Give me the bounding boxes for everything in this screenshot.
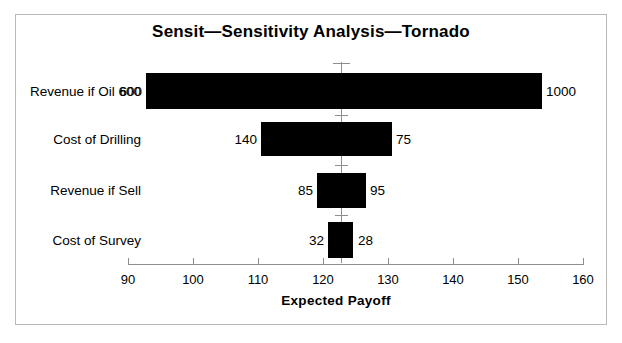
x-axis-label-100: 100 xyxy=(168,272,218,287)
bar-low-value-revenue-if-oil-600: 600 xyxy=(60,84,142,99)
x-axis-title: Expected Payoff xyxy=(236,293,436,308)
bar-high-value-cost-of-survey: 28 xyxy=(358,233,418,248)
x-axis-tick-110 xyxy=(258,258,259,265)
x-axis-label-120: 120 xyxy=(298,272,348,287)
bar-revenue-if-oil-600 xyxy=(146,73,542,109)
x-axis-tick-90 xyxy=(128,258,129,265)
x-axis-tick-150 xyxy=(518,258,519,265)
bar-high-value-revenue-if-oil-600: 1000 xyxy=(546,84,606,99)
bar-cost-of-survey xyxy=(328,222,353,258)
bar-high-value-cost-of-drilling: 75 xyxy=(396,132,456,147)
x-axis-tick-160 xyxy=(583,258,584,265)
x-axis-line xyxy=(128,264,584,265)
x-axis-tick-130 xyxy=(388,258,389,265)
x-axis-label-160: 160 xyxy=(558,272,608,287)
baseline-tick-2 xyxy=(335,165,348,166)
row-label-revenue-if-sell: Revenue if Sell xyxy=(0,183,141,198)
baseline-tick-top xyxy=(333,63,350,64)
x-axis-label-110: 110 xyxy=(233,272,283,287)
plot-area: Revenue if Oil 600 600 1000 Cost of Dril… xyxy=(0,0,622,343)
x-axis-tick-100 xyxy=(193,258,194,265)
bar-low-value-cost-of-survey: 32 xyxy=(262,233,324,248)
x-axis-tick-140 xyxy=(453,258,454,265)
x-axis-tick-120 xyxy=(323,258,324,265)
row-label-cost-of-survey: Cost of Survey xyxy=(0,233,141,248)
bar-low-value-revenue-if-sell: 85 xyxy=(251,183,313,198)
tornado-chart-figure: Sensit—Sensitivity Analysis—Tornado Reve… xyxy=(0,0,622,343)
bar-cost-of-drilling xyxy=(261,122,392,156)
bar-low-value-cost-of-drilling: 140 xyxy=(195,132,257,147)
baseline-tick-3 xyxy=(335,215,348,216)
bar-high-value-revenue-if-sell: 95 xyxy=(370,183,430,198)
row-label-cost-of-drilling: Cost of Drilling xyxy=(0,132,141,147)
x-axis-label-90: 90 xyxy=(103,272,153,287)
x-axis-label-130: 130 xyxy=(363,272,413,287)
x-axis-label-150: 150 xyxy=(493,272,543,287)
bar-revenue-if-sell xyxy=(317,173,366,208)
baseline-tick-1 xyxy=(335,115,348,116)
x-axis-label-140: 140 xyxy=(428,272,478,287)
